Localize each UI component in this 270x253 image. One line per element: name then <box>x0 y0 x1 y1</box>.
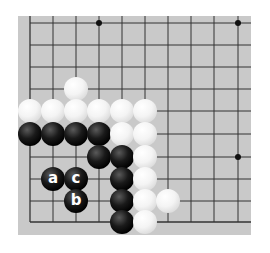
white-stone <box>133 145 157 169</box>
black-stone <box>110 167 134 191</box>
black-stone: b <box>64 189 88 213</box>
black-stone <box>64 122 88 146</box>
star-point <box>96 20 102 26</box>
white-stone <box>18 99 42 123</box>
white-stone <box>133 167 157 191</box>
black-stone: c <box>64 167 88 191</box>
black-stone <box>87 145 111 169</box>
white-stone <box>133 122 157 146</box>
black-stone <box>110 210 134 234</box>
white-stone <box>64 77 88 101</box>
stone-label: c <box>72 171 81 186</box>
white-stone <box>110 99 134 123</box>
star-point <box>235 20 241 26</box>
white-stone <box>110 122 134 146</box>
black-stone <box>41 122 65 146</box>
white-stone <box>133 210 157 234</box>
black-stone <box>87 122 111 146</box>
white-stone <box>64 99 88 123</box>
white-stone <box>87 99 111 123</box>
white-stone <box>156 189 180 213</box>
black-stone: a <box>41 167 65 191</box>
black-stone <box>110 145 134 169</box>
white-stone <box>133 99 157 123</box>
stone-label: b <box>71 193 82 208</box>
star-point <box>235 154 241 160</box>
black-stone <box>18 122 42 146</box>
white-stone <box>41 99 65 123</box>
stone-label: a <box>48 171 58 186</box>
